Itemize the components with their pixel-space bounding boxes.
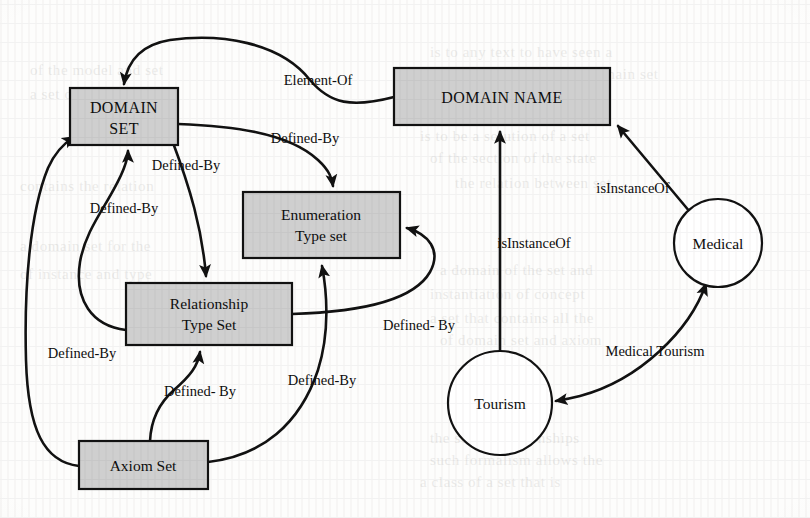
edge-medical-isinstanceof-domainname [618, 126, 690, 212]
node-enumeration-type-set[interactable]: Enumeration Type set [243, 192, 400, 258]
node-relationship-label-line1: Relationship [170, 295, 249, 312]
edge-axiomset-to-domainset [26, 137, 79, 466]
node-domain-name[interactable]: DOMAIN NAME [394, 68, 610, 125]
edge-label-relationship-to-domainset: Defined-By [90, 200, 159, 216]
node-domain-set-label-line1: DOMAIN [90, 99, 158, 116]
node-tourism[interactable]: Tourism [448, 351, 552, 455]
edge-label-domainset-to-relationship: Defined-By [152, 157, 221, 173]
node-axiom-set-label: Axiom Set [110, 457, 177, 474]
edge-label-medical-tourism: Medical Tourism [606, 343, 706, 359]
edge-label-axiomset-to-relationship: Defined- By [164, 383, 237, 399]
node-relationship-type-set[interactable]: Relationship Type Set [126, 283, 292, 345]
node-medical[interactable]: Medical [674, 199, 762, 287]
edge-label-axiomset-to-domainset: Defined-By [48, 345, 117, 361]
node-enumeration-label-line1: Enumeration [281, 206, 361, 223]
edge-label-relationship-to-enumeration: Defined- By [383, 317, 456, 333]
edge-label-axiomset-to-enumeration: Defined-By [288, 372, 357, 388]
edge-label-element-of: Element-Of [284, 72, 353, 88]
node-enumeration-label-line2: Type set [295, 227, 348, 244]
node-domain-set[interactable]: DOMAIN SET [70, 88, 178, 145]
node-domain-set-label-line2: SET [109, 120, 139, 137]
node-axiom-set[interactable]: Axiom Set [79, 441, 208, 489]
node-domain-name-label: DOMAIN NAME [441, 89, 562, 106]
edge-label-domainset-to-enumeration: Defined-By [271, 130, 340, 146]
ontology-diagram: DOMAIN SET DOMAIN NAME Enumeration Type … [0, 0, 810, 518]
edge-relationship-to-domainset [79, 151, 128, 330]
edge-label-medical-isinstanceof: isInstanceOf [596, 180, 669, 196]
node-tourism-label: Tourism [474, 395, 525, 412]
node-medical-label: Medical [693, 235, 744, 252]
edge-label-tourism-isinstanceof: isInstanceOf [497, 235, 570, 251]
node-relationship-label-line2: Type Set [182, 316, 237, 333]
